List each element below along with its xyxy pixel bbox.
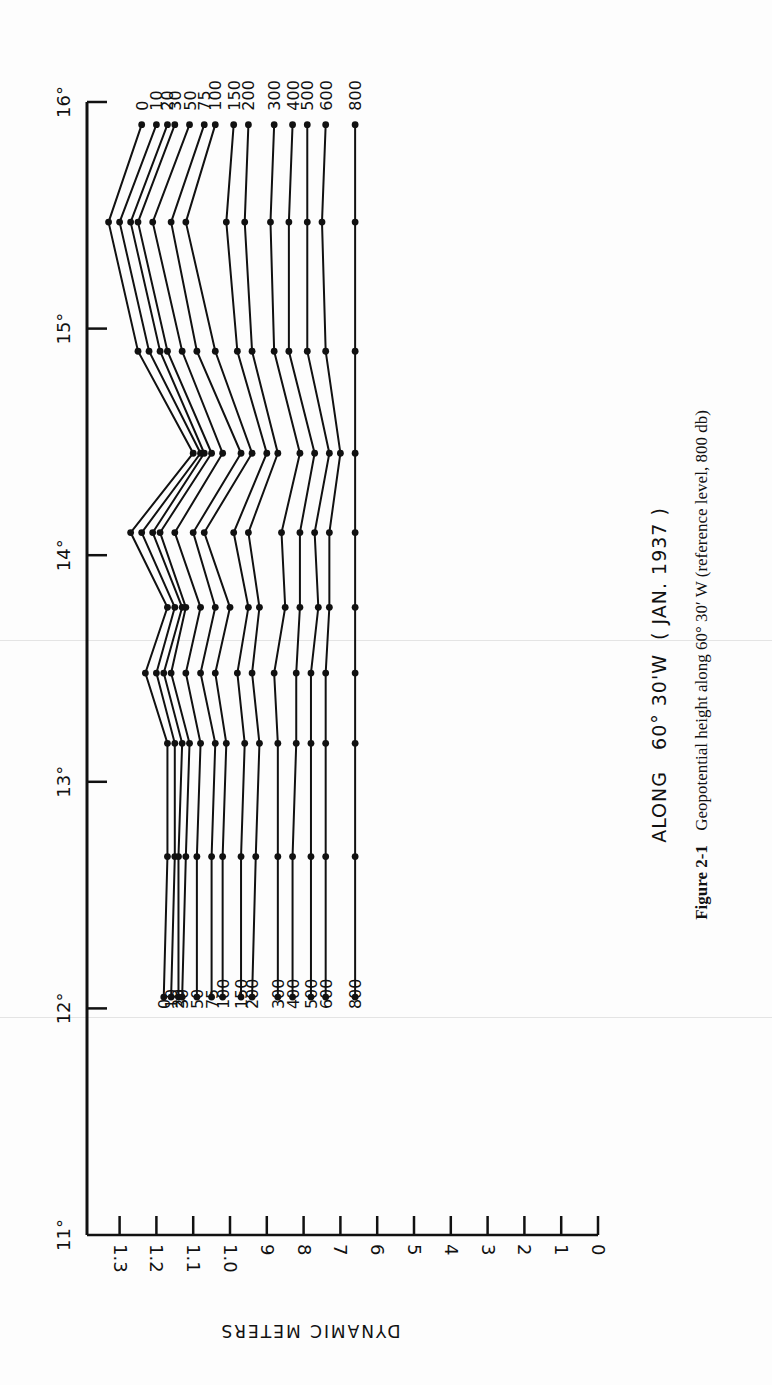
data-point	[201, 529, 208, 536]
data-point	[171, 121, 178, 128]
data-point	[271, 121, 278, 128]
data-point	[227, 604, 234, 611]
data-point	[197, 670, 204, 677]
data-point	[304, 348, 311, 355]
data-point	[241, 219, 248, 226]
data-point	[208, 450, 215, 457]
data-point	[352, 853, 359, 860]
series-label-bottom: 600	[317, 979, 336, 1010]
series-600	[319, 121, 344, 1000]
data-point	[249, 670, 256, 677]
data-point	[352, 219, 359, 226]
data-point	[322, 121, 329, 128]
dm-tick-label: 0	[588, 1244, 609, 1255]
data-point	[186, 740, 193, 747]
data-point	[289, 853, 296, 860]
data-point	[164, 740, 171, 747]
data-point	[322, 348, 329, 355]
data-point	[245, 604, 252, 611]
data-point	[274, 853, 281, 860]
data-point	[153, 670, 160, 677]
data-point	[304, 121, 311, 128]
dm-tick-label: 8	[294, 1244, 315, 1255]
data-point	[182, 604, 189, 611]
data-point	[164, 121, 171, 128]
data-point	[149, 219, 156, 226]
series-label-top: 100	[206, 80, 225, 111]
data-point	[149, 529, 156, 536]
data-point	[319, 219, 326, 226]
series-label-bottom: 800	[346, 979, 365, 1010]
data-point	[212, 121, 219, 128]
series-label-bottom: 100	[214, 979, 233, 1010]
series-label-bottom: 200	[243, 979, 262, 1010]
data-point	[230, 121, 237, 128]
data-point	[219, 853, 226, 860]
data-point	[271, 348, 278, 355]
data-point	[308, 740, 315, 747]
data-point	[164, 348, 171, 355]
data-point	[168, 219, 175, 226]
dm-tick-label: 2	[514, 1244, 535, 1255]
data-point	[171, 740, 178, 747]
dm-tick-label: 9	[257, 1244, 278, 1255]
dm-tick-label: 1.0	[220, 1244, 241, 1273]
data-point	[230, 529, 237, 536]
data-point	[285, 219, 292, 226]
data-point	[245, 121, 252, 128]
data-point	[249, 450, 256, 457]
data-point	[160, 670, 167, 677]
lat-tick-label: 12°	[53, 992, 74, 1024]
data-point	[245, 529, 252, 536]
data-point	[249, 348, 256, 355]
data-point	[223, 740, 230, 747]
data-point	[186, 121, 193, 128]
data-point	[311, 450, 318, 457]
series-800	[352, 121, 359, 1000]
data-point	[157, 529, 164, 536]
data-point	[289, 121, 296, 128]
data-point	[212, 670, 219, 677]
data-point	[142, 670, 149, 677]
data-point	[201, 450, 208, 457]
dynamic-meters-axis: 01234567891.01.11.21.3	[87, 1216, 609, 1273]
data-point	[127, 529, 134, 536]
data-point	[352, 740, 359, 747]
lat-tick-label: 13°	[53, 766, 74, 798]
data-point	[179, 348, 186, 355]
data-point	[179, 740, 186, 747]
data-point	[352, 529, 359, 536]
data-point	[315, 604, 322, 611]
figure-caption-label: Figure 2-1	[692, 845, 711, 920]
data-point	[212, 604, 219, 611]
data-point	[238, 450, 245, 457]
data-point	[197, 604, 204, 611]
data-point	[304, 219, 311, 226]
data-point	[278, 529, 285, 536]
series-label-top: 500	[298, 80, 317, 111]
lat-tick-label: 14°	[53, 539, 74, 571]
dm-tick-label: 1	[551, 1244, 572, 1255]
data-point	[234, 670, 241, 677]
data-point	[208, 853, 215, 860]
series-label-top: 300	[265, 80, 284, 111]
data-point	[274, 740, 281, 747]
data-point	[326, 604, 333, 611]
data-point	[223, 219, 230, 226]
dm-tick-label: 6	[367, 1244, 388, 1255]
data-point	[352, 348, 359, 355]
data-point	[171, 604, 178, 611]
data-point	[263, 450, 270, 457]
data-point	[238, 853, 245, 860]
data-point	[105, 219, 112, 226]
data-point	[252, 853, 259, 860]
series-label-top: 200	[239, 80, 258, 111]
figure-caption: Figure 2-1 Geopotential height along 60°…	[692, 410, 711, 920]
lat-tick-label: 16°	[53, 86, 74, 118]
data-point	[285, 348, 292, 355]
data-point	[297, 450, 304, 457]
data-point	[138, 121, 145, 128]
series-label-top: 800	[346, 80, 365, 111]
series-100	[182, 121, 255, 1000]
data-point	[282, 604, 289, 611]
